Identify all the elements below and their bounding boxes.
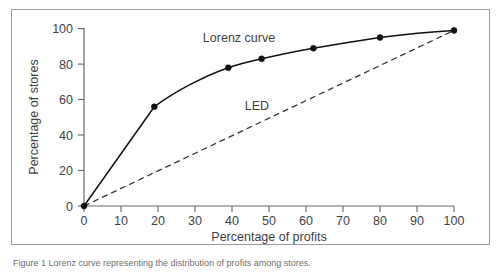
y-tick-label: 80 <box>59 58 73 72</box>
x-tick-label: 100 <box>444 214 465 228</box>
x-tick-label: 60 <box>299 214 313 228</box>
y-axis-ticks <box>78 29 84 206</box>
x-tick-label: 70 <box>336 214 350 228</box>
figure-frame: 100 80 60 40 20 0 <box>11 9 490 245</box>
x-tick-label: 40 <box>225 214 239 228</box>
x-tick-label: 0 <box>81 214 88 228</box>
y-tick-label: 0 <box>66 200 73 214</box>
data-point <box>81 203 87 209</box>
data-point <box>225 65 231 71</box>
y-tick-label: 100 <box>52 22 73 36</box>
data-point <box>377 35 383 41</box>
x-axis-ticks <box>84 206 454 212</box>
data-point <box>451 27 457 33</box>
x-tick-label: 10 <box>114 214 128 228</box>
x-axis-tick-labels: 0 10 20 30 40 50 60 70 80 90 100 <box>81 214 465 228</box>
figure-caption: Figure 1 Lorenz curve representing the d… <box>13 258 483 276</box>
data-point <box>259 56 265 62</box>
lorenz-curve-chart: 100 80 60 40 20 0 <box>12 10 489 244</box>
led-annotation: LED <box>245 99 269 113</box>
data-point <box>310 45 316 51</box>
x-axis-title: Percentage of profits <box>211 230 326 244</box>
x-tick-label: 30 <box>188 214 202 228</box>
x-tick-label: 50 <box>262 214 276 228</box>
y-tick-label: 40 <box>59 129 73 143</box>
y-axis-title: Percentage of stores <box>27 59 41 174</box>
x-tick-label: 20 <box>151 214 165 228</box>
x-tick-label: 90 <box>410 214 424 228</box>
data-point <box>151 104 157 110</box>
y-tick-label: 60 <box>59 93 73 107</box>
y-tick-label: 20 <box>59 164 73 178</box>
x-tick-label: 80 <box>373 214 387 228</box>
figure-page: 100 80 60 40 20 0 <box>0 0 501 278</box>
y-axis-tick-labels: 100 80 60 40 20 0 <box>52 22 73 213</box>
lorenz-curve-annotation: Lorenz curve <box>203 31 275 45</box>
